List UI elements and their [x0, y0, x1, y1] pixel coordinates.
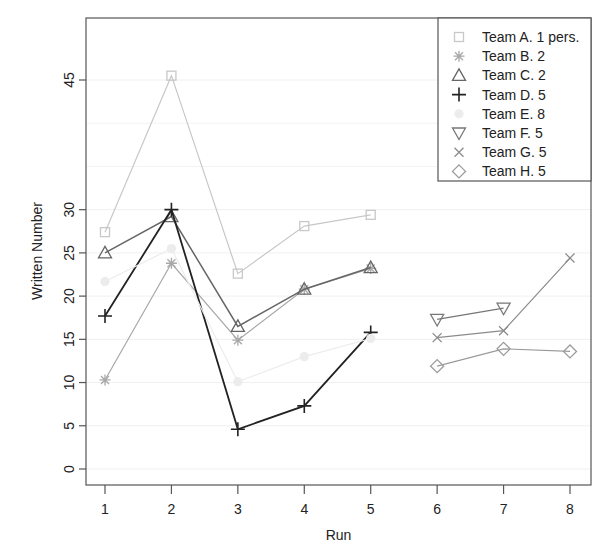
series-line: [437, 308, 503, 319]
y-tick-label: 20: [61, 288, 77, 304]
circle-legend-icon: [455, 110, 463, 118]
legend-label: Team H. 5: [482, 163, 546, 179]
circle-marker-icon: [367, 334, 375, 342]
series-team-c-2: [99, 210, 378, 331]
asterisk-marker-icon: [232, 335, 243, 346]
x-tick-label: 5: [367, 501, 375, 517]
series-team-h-5: [431, 342, 577, 372]
x-tick-label: 2: [168, 501, 176, 517]
circle-marker-icon: [234, 378, 242, 386]
series-team-a-1-pers: [101, 71, 376, 278]
circle-marker-icon: [101, 277, 109, 285]
x-tick-label: 7: [500, 501, 508, 517]
series-line: [437, 349, 570, 366]
series-team-f-5: [431, 303, 510, 326]
y-tick-label: 15: [61, 331, 77, 347]
legend-label: Team G. 5: [482, 144, 547, 160]
legend-label: Team B. 2: [482, 48, 545, 64]
x-axis: 12345678: [101, 485, 574, 517]
y-tick-label: 45: [61, 72, 77, 88]
plus-marker-icon: [98, 309, 112, 323]
legend-label: Team D. 5: [482, 87, 546, 103]
asterisk-marker-icon: [100, 374, 111, 385]
line-chart: 05101520253045 12345678 Run Written Numb…: [0, 0, 605, 554]
legend-label: Team C. 2: [482, 67, 546, 83]
asterisk-marker-icon: [166, 258, 177, 269]
x-marker-icon: [566, 254, 575, 263]
y-axis: 05101520253045: [61, 72, 86, 473]
y-tick-label: 0: [61, 465, 77, 473]
asterisk-legend-icon: [454, 51, 465, 62]
series-line: [105, 76, 371, 274]
legend-label: Team A. 1 pers.: [482, 29, 579, 45]
plus-marker-icon: [231, 422, 245, 436]
y-tick-label: 30: [61, 202, 77, 218]
x-tick-label: 6: [433, 501, 441, 517]
circle-marker-icon: [167, 245, 175, 253]
x-tick-label: 8: [566, 501, 574, 517]
plus-marker-icon: [164, 203, 178, 217]
y-axis-label: Written Number: [29, 202, 45, 300]
x-tick-label: 1: [101, 501, 109, 517]
series-line: [437, 258, 570, 338]
y-tick-label: 10: [61, 375, 77, 391]
series-team-b-2: [100, 258, 377, 386]
x-tick-label: 3: [234, 501, 242, 517]
y-tick-label: 5: [61, 422, 77, 430]
legend-label: Team E. 8: [482, 106, 545, 122]
x-axis-label: Run: [326, 527, 352, 543]
y-tick-label: 25: [61, 245, 77, 261]
legend: Team A. 1 pers.Team B. 2Team C. 2Team D.…: [438, 18, 591, 181]
triangle-down-marker-icon: [431, 314, 444, 326]
legend-label: Team F. 5: [482, 125, 543, 141]
circle-marker-icon: [300, 353, 308, 361]
x-tick-label: 4: [300, 501, 308, 517]
series-team-g-5: [433, 254, 575, 343]
